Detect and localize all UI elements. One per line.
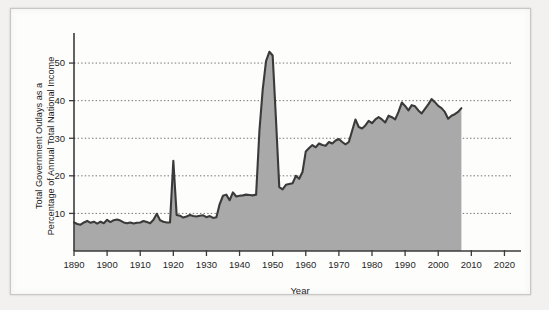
x-tick-label-1900: 1900 bbox=[97, 259, 118, 270]
figure-page: Total Government Outlays as a Percentage… bbox=[0, 0, 549, 310]
x-tick-label-1890: 1890 bbox=[63, 259, 84, 270]
x-tick-label-1970: 1970 bbox=[328, 259, 349, 270]
x-tick-label-1930: 1930 bbox=[196, 259, 217, 270]
y-tick-label-50: 50 bbox=[54, 57, 65, 68]
x-tick-label-1960: 1960 bbox=[295, 259, 316, 270]
area-chart: Total Government Outlays as a Percentage… bbox=[0, 0, 549, 310]
series-area bbox=[74, 52, 461, 251]
y-tick-label-20: 20 bbox=[54, 170, 65, 181]
y-axis-ticks: 1020304050 bbox=[54, 57, 75, 218]
x-tick-label-1920: 1920 bbox=[163, 259, 184, 270]
chart-area: Total Government Outlays as a Percentage… bbox=[0, 0, 549, 310]
x-axis-ticks: 1890190019101920193019401950196019701980… bbox=[63, 250, 515, 270]
y-axis-title-line1: Total Government Outlays as a bbox=[34, 82, 44, 209]
x-tick-label-2010: 2010 bbox=[461, 259, 482, 270]
x-tick-label-1950: 1950 bbox=[262, 259, 283, 270]
x-tick-label-1980: 1980 bbox=[361, 259, 382, 270]
y-tick-label-30: 30 bbox=[54, 133, 65, 144]
x-axis-title: Year bbox=[290, 285, 309, 296]
y-tick-label-40: 40 bbox=[54, 95, 65, 106]
y-axis-title: Total Government Outlays as a Percentage… bbox=[34, 57, 56, 236]
x-tick-label-1910: 1910 bbox=[130, 259, 151, 270]
x-tick-label-1990: 1990 bbox=[395, 259, 416, 270]
x-tick-label-1940: 1940 bbox=[229, 259, 250, 270]
x-tick-label-2020: 2020 bbox=[494, 259, 515, 270]
x-tick-label-2000: 2000 bbox=[428, 259, 449, 270]
y-tick-label-10: 10 bbox=[54, 208, 65, 219]
